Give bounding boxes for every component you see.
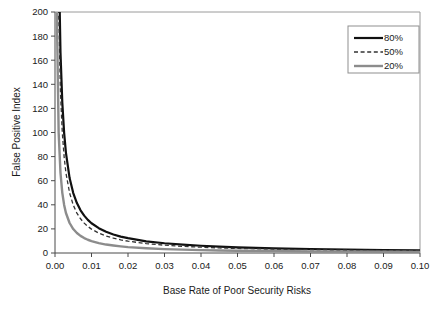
x-tick-label: 0.05	[228, 260, 247, 271]
false-positive-index-chart: 020406080100120140160180200 0.000.010.02…	[0, 0, 445, 311]
y-tick-label: 80	[37, 151, 48, 162]
x-tick-label: 0.01	[82, 260, 101, 271]
x-tick-label: 0.07	[301, 260, 320, 271]
y-axis-title: False Positive Index	[11, 87, 22, 177]
y-tick-label: 200	[32, 6, 48, 17]
x-tick-label: 0.08	[338, 260, 357, 271]
x-tick-label: 0.06	[265, 260, 284, 271]
chart-legend: 80%50%20%	[348, 26, 419, 73]
y-tick-label: 120	[32, 103, 48, 114]
x-tick-label: 0.03	[155, 260, 174, 271]
y-tick-label: 140	[32, 79, 48, 90]
x-tick-label: 0.09	[374, 260, 393, 271]
x-axis-title: Base Rate of Poor Security Risks	[163, 285, 311, 296]
y-tick-label: 20	[37, 223, 48, 234]
y-tick-label: 0	[43, 247, 48, 258]
y-tick-label: 180	[32, 31, 48, 42]
legend-label-20pct: 20%	[384, 60, 404, 71]
x-tick-label: 0.10	[411, 260, 430, 271]
chart-container: 020406080100120140160180200 0.000.010.02…	[0, 0, 445, 311]
y-tick-label: 100	[32, 127, 48, 138]
legend-label-50pct: 50%	[384, 46, 404, 57]
x-tick-label: 0.04	[192, 260, 211, 271]
legend-label-80pct: 80%	[384, 32, 404, 43]
x-tick-label: 0.02	[119, 260, 138, 271]
y-tick-label: 60	[37, 175, 48, 186]
x-tick-label: 0.00	[46, 260, 65, 271]
y-tick-label: 160	[32, 55, 48, 66]
y-tick-label: 40	[37, 199, 48, 210]
